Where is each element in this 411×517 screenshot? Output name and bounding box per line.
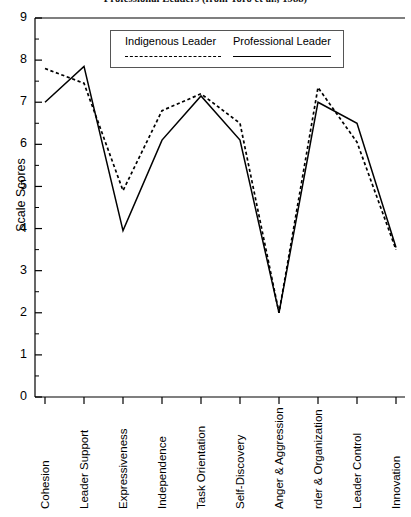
x-axis-ticks — [45, 397, 396, 404]
y-tick-label: 7 — [3, 95, 27, 108]
y-tick-label: 1 — [3, 348, 27, 361]
x-category-label: Anger & Aggression — [274, 407, 286, 509]
y-tick-label: 0 — [3, 390, 27, 403]
x-category-label: rder & Organization — [313, 409, 325, 509]
x-category-label: Independence — [157, 436, 169, 509]
y-tick-label: 2 — [3, 306, 27, 319]
x-category-label: Expressiveness — [118, 428, 130, 509]
x-category-label: Cohesion — [40, 460, 52, 509]
x-category-label: Innovation — [391, 456, 403, 509]
x-category-label: Leader Control — [352, 433, 364, 509]
y-tick-label: 3 — [3, 264, 27, 277]
x-category-label: Task Orientation — [196, 426, 208, 509]
x-category-label: Leader Support — [79, 430, 91, 509]
y-tick-label: 4 — [3, 222, 27, 235]
legend-label-professional: Professional Leader — [233, 35, 331, 47]
chart-legend: Indigenous Leader Professional Leader — [110, 30, 344, 68]
y-tick-label: 8 — [3, 53, 27, 66]
y-tick-label: 9 — [3, 11, 27, 24]
chart-plot-area: Scale Scores 0123456789CohesionLeader Su… — [0, 0, 411, 517]
y-tick-label: 5 — [3, 179, 27, 192]
legend-swatch-professional-solid-line — [233, 56, 331, 57]
legend-label-indigenous: Indigenous Leader — [125, 35, 216, 47]
y-tick-label: 6 — [3, 137, 27, 150]
series-line-professional — [45, 66, 396, 312]
x-category-label: Self-Discovery — [235, 435, 247, 509]
y-axis-ticks — [35, 18, 42, 397]
series-line-indigenous — [45, 69, 396, 313]
legend-swatch-indigenous-dashed-line — [125, 56, 221, 57]
axis-frame — [35, 18, 405, 397]
